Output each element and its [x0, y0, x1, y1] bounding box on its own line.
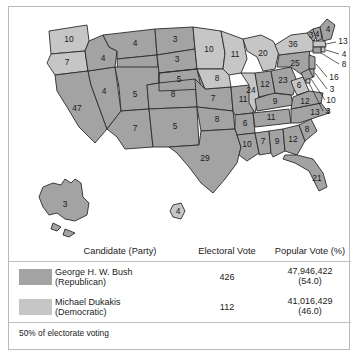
- electoral-vote-republican: 426: [185, 262, 269, 293]
- figure-frame: 10 7 47 4 4 4 3: [8, 6, 350, 350]
- ev-label-ME: 4: [326, 24, 331, 34]
- ev-label-MI: 20: [258, 48, 268, 58]
- leader-line-CT: [321, 53, 339, 64]
- ev-label-IA: 8: [215, 73, 220, 83]
- ev-label-MA: 13: [338, 36, 348, 46]
- ev-label-CT: 8: [342, 59, 347, 69]
- ev-label-OK: 8: [215, 114, 220, 124]
- ev-label-AR: 6: [243, 118, 248, 128]
- ev-label-ID: 4: [101, 53, 106, 63]
- ev-label-NC: 13: [310, 107, 320, 117]
- state-NJ[interactable]: [309, 55, 315, 69]
- democratic-swatch: [19, 299, 52, 315]
- ev-label-GA: 12: [288, 134, 298, 144]
- ev-label-TN: 11: [267, 112, 276, 122]
- ev-label-NY: 36: [288, 39, 298, 49]
- map-area: 10 7 47 4 4 4 3: [9, 7, 351, 243]
- ev-label-IN: 12: [260, 79, 270, 89]
- ev-label-PA: 25: [290, 58, 300, 68]
- ev-label-OR: 7: [65, 57, 70, 67]
- candidate-cell-democratic: Michael Dukakis (Democratic): [55, 292, 185, 322]
- ev-label-MS: 7: [261, 136, 266, 146]
- ev-label-CA: 47: [72, 103, 82, 113]
- table-row[interactable]: Michael Dukakis (Democratic) 112 41,016,…: [9, 292, 351, 322]
- ev-label-KY: 9: [273, 96, 278, 106]
- ev-label-NH: 4: [315, 29, 320, 39]
- electoral-map-figure: 10 7 47 4 4 4 3: [0, 0, 358, 360]
- ev-label-MO: 11: [239, 94, 248, 104]
- popular-vote-republican: 47,946,422 (54.0): [269, 262, 351, 293]
- ev-label-AL: 9: [275, 136, 280, 146]
- ev-label-VT: 3: [309, 30, 314, 40]
- swatch-cell-republican: [9, 262, 55, 293]
- state-MA[interactable]: [313, 41, 326, 47]
- popular-vote-democratic: 41,016,429 (46.0): [269, 292, 351, 322]
- ev-label-OH: 23: [278, 75, 288, 85]
- popular-vote-percent: (46.0): [269, 307, 351, 317]
- state-CT[interactable]: [313, 47, 321, 53]
- ev-label-SC: 8: [305, 124, 310, 134]
- ev-label-WA: 10: [64, 34, 74, 44]
- ev-label-AZ: 7: [133, 123, 138, 133]
- table-header: Candidate (Party) Electoral Vote Popular…: [9, 243, 351, 262]
- ev-label-SD: 3: [175, 54, 180, 64]
- ev-label-RI: 4: [342, 49, 347, 59]
- ev-label-DE: 3: [330, 84, 335, 94]
- state-DC[interactable]: [306, 79, 310, 83]
- ev-label-VA: 12: [300, 96, 310, 106]
- leader-line-RI: [326, 50, 339, 54]
- ev-label-WV: 6: [297, 80, 302, 90]
- ev-label-DC: 3: [326, 106, 331, 116]
- ev-label-HI: 4: [176, 206, 181, 216]
- ev-label-NM: 5: [173, 121, 178, 131]
- ev-label-LA: 10: [242, 139, 252, 149]
- ev-label-KS: 7: [211, 93, 216, 103]
- ev-label-NE: 5: [177, 74, 182, 84]
- ev-label-NV: 4: [102, 86, 107, 96]
- footnote-text: 50% of electorate voting: [9, 323, 351, 338]
- swatch-cell-democratic: [9, 292, 55, 322]
- ev-label-AK: 3: [63, 199, 68, 209]
- ev-label-MD: 10: [326, 95, 336, 105]
- candidate-name: Michael Dukakis: [55, 297, 185, 307]
- ev-label-NJ: 16: [329, 72, 339, 82]
- ev-label-IL: 24: [246, 85, 256, 95]
- ev-label-ND: 3: [173, 34, 178, 44]
- leader-line-NJ: [316, 64, 327, 77]
- legend-table-area: Candidate (Party) Electoral Vote Popular…: [9, 243, 351, 350]
- header-electoral-vote: Electoral Vote: [185, 243, 269, 262]
- table-header-row: Candidate (Party) Electoral Vote Popular…: [9, 243, 351, 262]
- state-RI[interactable]: [321, 47, 325, 52]
- header-popular-vote: Popular Vote (%): [269, 243, 351, 262]
- leader-line-MA: [326, 42, 336, 44]
- table-row[interactable]: George H. W. Bush (Republican) 426 47,94…: [9, 262, 351, 293]
- ev-label-TX: 29: [200, 153, 210, 163]
- header-candidate: Candidate (Party): [55, 243, 185, 262]
- table-body: George H. W. Bush (Republican) 426 47,94…: [9, 262, 351, 323]
- header-swatch-spacer: [9, 243, 55, 262]
- results-table: Candidate (Party) Electoral Vote Popular…: [9, 243, 351, 322]
- candidate-party: (Democratic): [55, 307, 185, 317]
- republican-swatch: [19, 269, 52, 285]
- electoral-vote-democratic: 112: [185, 292, 269, 322]
- candidate-name: George H. W. Bush: [55, 267, 185, 277]
- ev-label-FL: 21: [312, 173, 322, 183]
- ev-label-MT: 4: [133, 38, 138, 48]
- us-map-svg: 10 7 47 4 4 4 3: [9, 7, 351, 243]
- popular-vote-percent: (54.0): [269, 277, 351, 287]
- candidate-party: (Republican): [55, 277, 185, 287]
- ev-label-MN: 10: [204, 44, 214, 54]
- ev-label-UT: 5: [133, 89, 138, 99]
- candidate-cell-republican: George H. W. Bush (Republican): [55, 262, 185, 293]
- ev-label-WI: 11: [231, 49, 240, 59]
